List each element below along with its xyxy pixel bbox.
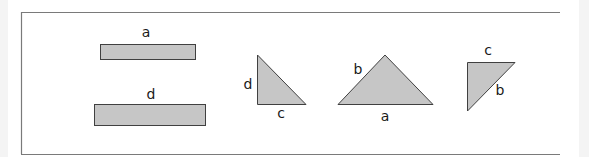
label-b-side: b xyxy=(354,61,363,77)
label-c-top: c xyxy=(484,42,492,58)
rectangle-a: a xyxy=(101,24,196,60)
label-d: d xyxy=(147,86,156,102)
right-triangle-dc: d c xyxy=(244,55,306,121)
label-a: a xyxy=(142,24,151,40)
label-c-leg: c xyxy=(277,105,285,121)
rectangle-d: d xyxy=(95,86,206,126)
right-triangle-cb: c b xyxy=(468,42,516,111)
triangle-ba: b a xyxy=(338,55,433,124)
shapes-diagram: a d d c b a c b xyxy=(0,0,589,157)
label-b-hyp: b xyxy=(496,82,505,98)
label-a-base: a xyxy=(381,108,390,124)
label-d-leg: d xyxy=(244,76,253,92)
